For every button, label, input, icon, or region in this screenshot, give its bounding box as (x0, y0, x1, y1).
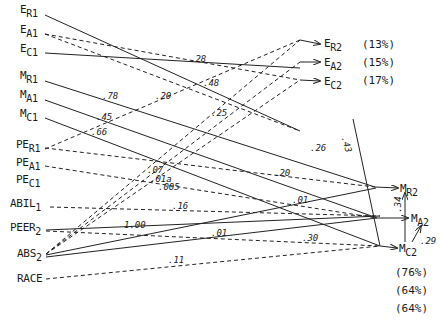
coef-label: .25 (211, 109, 227, 118)
coef-label: .45 (96, 113, 112, 122)
node-mr2: MR2 (400, 183, 418, 194)
node-ea1: EA1 (20, 24, 38, 35)
variance-ma2: (64%) (395, 285, 428, 296)
coef-label: .20 (274, 169, 290, 178)
variance-mr2: (76%) (395, 267, 428, 278)
node-per1: PER1 (16, 139, 40, 150)
node-pec1: PEC1 (16, 174, 40, 185)
node-ec1: EC1 (20, 43, 38, 54)
node-ma2: MA2 (411, 213, 429, 224)
node-pea1: PEA1 (16, 157, 40, 168)
node-abs2: ABS2 (17, 248, 42, 259)
node-abil1: ABIL1 (10, 198, 41, 209)
coef-label: .78 (102, 92, 118, 101)
variance-mc2: (64%) (395, 303, 428, 314)
coef-label: .16 (172, 202, 188, 211)
coef-label: .66 (91, 128, 107, 137)
node-race: RACE (17, 273, 42, 284)
coef-label: .34 (394, 196, 403, 212)
node-mc1: MC1 (20, 108, 38, 119)
node-er2: ER2 (324, 38, 342, 49)
node-peer2: PEER2 (10, 222, 41, 233)
node-ma1: MA1 (20, 89, 38, 100)
coef-label: .29 (420, 237, 436, 246)
coef-label: 1.00 (124, 221, 146, 230)
coef-label: .30 (302, 234, 318, 243)
coef-label: .005 (158, 183, 180, 192)
node-mc2: MC2 (399, 243, 417, 254)
node-er1: ER1 (20, 4, 38, 15)
coef-label: .26 (310, 144, 326, 153)
variance-er2: (13%) (362, 39, 395, 50)
variance-ea2: (15%) (362, 57, 395, 68)
coef-label: .28 (190, 55, 206, 64)
coef-label: .11 (168, 256, 184, 265)
variance-ec2: (17%) (362, 75, 395, 86)
coef-label: .01 (292, 196, 308, 205)
node-mr1: MR1 (20, 70, 38, 81)
coef-label: .48 (203, 79, 219, 88)
node-ec2: EC2 (324, 76, 342, 87)
node-ea2: EA2 (324, 57, 342, 68)
coef-label: .01 (211, 229, 227, 238)
coef-label: .20 (155, 92, 171, 101)
